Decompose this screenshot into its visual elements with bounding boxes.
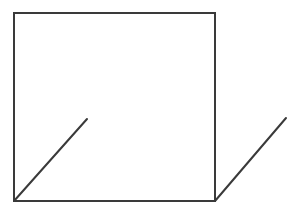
diagonal-line-right bbox=[215, 118, 286, 201]
square-outline bbox=[14, 13, 215, 201]
diagonal-line-left bbox=[14, 119, 87, 201]
diagram-canvas bbox=[0, 0, 304, 219]
